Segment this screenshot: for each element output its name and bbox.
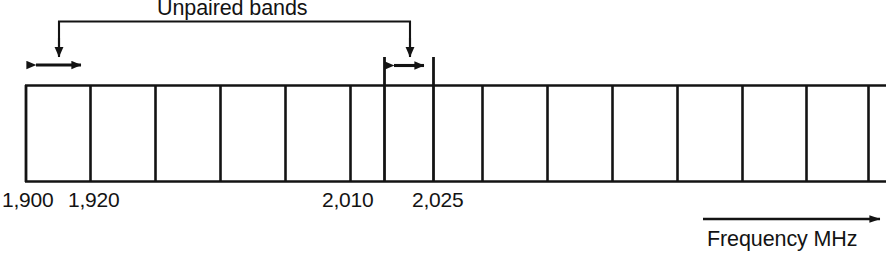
- frequency-axis-label: Frequency MHz: [707, 229, 857, 251]
- bracket-path: [59, 22, 410, 57]
- tick-label-1900: 1,900: [2, 189, 54, 210]
- unpaired-bands-bracket: [59, 22, 410, 58]
- spectrum-strip: [25, 85, 886, 182]
- frequency-band-diagram: Unpaired bands Frequency MHz 1,900 1,920…: [0, 0, 886, 262]
- tick-label-2025: 2,025: [412, 189, 464, 210]
- tick-label-1920: 1,920: [68, 189, 120, 210]
- band-cell-dividers: [91, 57, 869, 182]
- diagram-canvas: [0, 0, 886, 262]
- tick-label-2010: 2,010: [322, 189, 374, 210]
- unpaired-bands-title: Unpaired bands: [157, 0, 307, 20]
